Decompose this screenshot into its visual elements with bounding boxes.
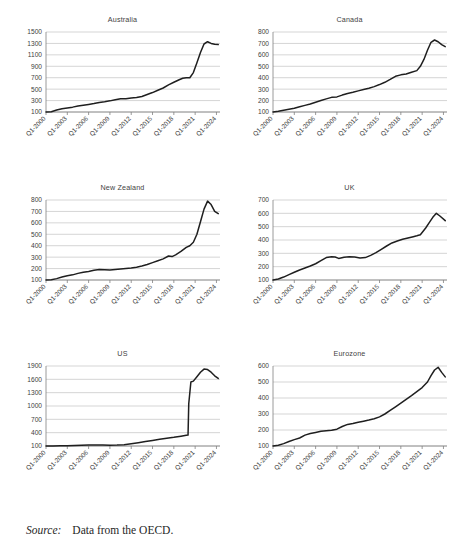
- chart-panel-australia: Australia 100300500700900110013001500Q1-…: [6, 14, 233, 182]
- x-axis-tick-label: Q1-2006: [294, 114, 318, 138]
- x-axis-tick-label: Q1-2000: [24, 114, 48, 138]
- chart-title-australia: Australia: [12, 14, 233, 26]
- x-axis-tick-label: Q1-2018: [152, 114, 176, 138]
- x-axis-tick-label: Q1-2006: [67, 282, 91, 306]
- y-axis-tick-label: 400: [258, 74, 269, 81]
- x-axis-tick-label: Q1-2000: [251, 114, 275, 138]
- y-axis-tick-label: 200: [258, 263, 269, 270]
- x-axis-tick-label: Q1-2015: [131, 282, 155, 306]
- plot-area-us: 1004007001000130016001900Q1-2000Q1-2003Q…: [6, 360, 233, 480]
- x-axis-tick-label: Q1-2015: [131, 448, 155, 472]
- x-axis-tick-label: Q1-2003: [272, 448, 296, 472]
- plot-area-canada: 100200300400500600700800Q1-2000Q1-2003Q1…: [233, 26, 455, 146]
- y-axis-tick-label: 500: [31, 86, 42, 93]
- x-axis-tick-label: Q1-2021: [173, 448, 197, 472]
- x-axis-tick-label: Q1-2024: [422, 114, 446, 138]
- y-axis-tick-label: 1500: [27, 28, 42, 35]
- chart-panel-eurozone: Eurozone 100200300400500600Q1-2000Q1-200…: [233, 348, 455, 511]
- y-axis-tick-label: 400: [258, 236, 269, 243]
- x-axis-tick-label: Q1-2009: [88, 282, 112, 306]
- chart-panel-canada: Canada 100200300400500600700800Q1-2000Q1…: [233, 14, 455, 182]
- y-axis-tick-label: 1300: [27, 40, 42, 47]
- chart-svg: 100200300400500600700800Q1-2000Q1-2003Q1…: [233, 26, 455, 146]
- y-axis-tick-label: 300: [258, 86, 269, 93]
- chart-title-eurozone: Eurozone: [239, 348, 455, 360]
- y-axis-tick-label: 500: [258, 378, 269, 385]
- x-axis-tick-label: Q1-2006: [67, 448, 91, 472]
- x-axis-tick-label: Q1-2009: [88, 114, 112, 138]
- x-axis-tick-label: Q1-2018: [152, 448, 176, 472]
- chart-grid: Australia 100300500700900110013001500Q1-…: [6, 14, 455, 511]
- x-axis-tick-label: Q1-2012: [109, 448, 133, 472]
- plot-area-new-zealand: 100200300400500600700800Q1-2000Q1-2003Q1…: [6, 194, 233, 314]
- data-series-line: [273, 213, 445, 280]
- y-axis-tick-label: 700: [31, 74, 42, 81]
- y-axis-tick-label: 600: [258, 51, 269, 58]
- y-axis-tick-label: 100: [31, 108, 42, 115]
- x-axis-tick-label: Q1-2018: [379, 448, 403, 472]
- x-axis-tick-label: Q1-2012: [336, 114, 360, 138]
- x-axis-tick-label: Q1-2000: [251, 448, 275, 472]
- y-axis-tick-label: 1600: [27, 376, 42, 383]
- y-axis-tick-label: 700: [258, 196, 269, 203]
- chart-panel-new-zealand: New Zealand 100200300400500600700800Q1-2…: [6, 182, 233, 348]
- x-axis-tick-label: Q1-2006: [294, 448, 318, 472]
- y-axis-tick-label: 100: [31, 442, 42, 449]
- y-axis-tick-label: 700: [31, 208, 42, 215]
- chart-svg: 1004007001000130016001900Q1-2000Q1-2003Q…: [6, 360, 233, 480]
- chart-title-new-zealand: New Zealand: [12, 182, 233, 194]
- x-axis-tick-label: Q1-2018: [379, 282, 403, 306]
- x-axis-tick-label: Q1-2003: [272, 282, 296, 306]
- y-axis-tick-label: 500: [258, 223, 269, 230]
- data-series-line: [46, 369, 218, 446]
- x-axis-tick-label: Q1-2021: [400, 114, 424, 138]
- y-axis-tick-label: 100: [258, 442, 269, 449]
- y-axis-tick-label: 1000: [27, 402, 42, 409]
- x-axis-tick-label: Q1-2003: [45, 448, 69, 472]
- y-axis-tick-label: 200: [258, 426, 269, 433]
- data-series-line: [273, 40, 445, 112]
- source-caption: Source:Data from the OECD.: [26, 524, 173, 536]
- y-axis-tick-label: 100: [258, 276, 269, 283]
- y-axis-tick-label: 500: [31, 231, 42, 238]
- plot-area-eurozone: 100200300400500600Q1-2000Q1-2003Q1-2006Q…: [233, 360, 455, 480]
- x-axis-tick-label: Q1-2009: [315, 448, 339, 472]
- plot-area-australia: 100300500700900110013001500Q1-2000Q1-200…: [6, 26, 233, 146]
- x-axis-tick-label: Q1-2000: [24, 448, 48, 472]
- x-axis-tick-label: Q1-2015: [131, 114, 155, 138]
- source-text: Data from the OECD.: [72, 524, 173, 536]
- x-axis-tick-label: Q1-2021: [400, 282, 424, 306]
- x-axis-tick-label: Q1-2021: [173, 114, 197, 138]
- x-axis-tick-label: Q1-2015: [358, 282, 382, 306]
- y-axis-tick-label: 1100: [28, 51, 43, 58]
- x-axis-tick-label: Q1-2018: [152, 282, 176, 306]
- x-axis-tick-label: Q1-2006: [67, 114, 91, 138]
- y-axis-tick-label: 800: [31, 196, 42, 203]
- chart-title-uk: UK: [239, 182, 455, 194]
- x-axis-tick-label: Q1-2012: [336, 282, 360, 306]
- source-label: Source:: [26, 524, 61, 536]
- chart-svg: 100200300400500600700Q1-2000Q1-2003Q1-20…: [233, 194, 455, 314]
- y-axis-tick-label: 900: [31, 63, 42, 70]
- x-axis-tick-label: Q1-2009: [315, 114, 339, 138]
- y-axis-tick-label: 400: [258, 394, 269, 401]
- x-axis-tick-label: Q1-2021: [400, 448, 424, 472]
- x-axis-tick-label: Q1-2003: [272, 114, 296, 138]
- x-axis-tick-label: Q1-2009: [88, 448, 112, 472]
- x-axis-tick-label: Q1-2024: [422, 282, 446, 306]
- x-axis-tick-label: Q1-2009: [315, 282, 339, 306]
- chart-panel-us: US 1004007001000130016001900Q1-2000Q1-20…: [6, 348, 233, 511]
- y-axis-tick-label: 600: [258, 210, 269, 217]
- chart-svg: 100300500700900110013001500Q1-2000Q1-200…: [6, 26, 233, 146]
- chart-svg: 100200300400500600700800Q1-2000Q1-2003Q1…: [6, 194, 233, 314]
- y-axis-tick-label: 100: [258, 108, 269, 115]
- chart-panel-uk: UK 100200300400500600700Q1-2000Q1-2003Q1…: [233, 182, 455, 348]
- y-axis-tick-label: 600: [31, 219, 42, 226]
- y-axis-tick-label: 300: [31, 97, 42, 104]
- x-axis-tick-label: Q1-2000: [251, 282, 275, 306]
- y-axis-tick-label: 1900: [27, 362, 42, 369]
- x-axis-tick-label: Q1-2015: [358, 114, 382, 138]
- x-axis-tick-label: Q1-2003: [45, 114, 69, 138]
- x-axis-tick-label: Q1-2012: [336, 448, 360, 472]
- y-axis-tick-label: 700: [31, 416, 42, 423]
